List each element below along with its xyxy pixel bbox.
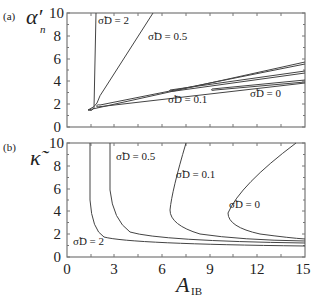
panel-b-label: (b): [3, 141, 16, 154]
svg-text:6: 6: [54, 181, 62, 197]
svg-text:0: 0: [54, 249, 62, 265]
svg-text:2: 2: [54, 226, 62, 242]
svg-text:6: 6: [54, 51, 62, 67]
svg-text:6: 6: [158, 261, 166, 277]
svg-text:0: 0: [63, 261, 71, 277]
curve-a-sigma-2: [88, 13, 96, 111]
y-axis-label-b: κ̃: [30, 145, 50, 170]
label-b-sigma-0.5: σ̃D = 0.5: [116, 150, 156, 162]
label-a-sigma-0.1: σ̃D = 0.1: [168, 93, 207, 105]
legend-labels-b: σ̃D = 2 σ̃D = 0.5 σ̃D = 0.1 σ̃D = 0: [73, 150, 261, 247]
svg-text:0: 0: [54, 119, 62, 135]
svg-text:10: 10: [49, 135, 64, 151]
svg-text:3: 3: [110, 261, 118, 277]
svg-text:12: 12: [250, 261, 265, 277]
panel-a: (a) α′ n: [3, 4, 305, 135]
svg-text:4: 4: [54, 203, 62, 219]
y-tick-labels-b: 0 2 4 6 8 10: [49, 135, 64, 265]
curve-b-sigma-0: [228, 143, 305, 239]
label-b-sigma-2: σ̃D = 2: [73, 235, 104, 247]
label-a-sigma-2: σ̃D = 2: [98, 14, 129, 26]
figure: (a) α′ n: [0, 0, 318, 296]
svg-text:4: 4: [54, 73, 62, 89]
y-tick-labels-a: 0 2 4 6 8 10: [49, 5, 64, 135]
panel-b: (b) κ̃ 0: [3, 135, 311, 296]
x-axis-label: A: [174, 272, 190, 296]
svg-text:8: 8: [54, 28, 62, 44]
curve-a-sigma-0.5: [88, 13, 153, 110]
svg-text:10: 10: [49, 5, 64, 21]
panel-a-label: (a): [3, 10, 16, 23]
y-axis-label-a-subscript: n: [40, 23, 46, 35]
legend-labels-a: σ̃D = 2 σ̃D = 0.5 σ̃D = 0.1 σ̃D = 0: [98, 14, 282, 105]
label-a-sigma-0.5: σ̃D = 0.5: [148, 30, 188, 42]
svg-text:2: 2: [54, 96, 62, 112]
svg-text:9: 9: [206, 261, 214, 277]
svg-text:15: 15: [296, 261, 311, 277]
label-a-sigma-0: σ̃D = 0: [250, 87, 282, 99]
label-b-sigma-0: σ̃D = 0: [229, 198, 261, 210]
label-b-sigma-0.1: σ̃D = 0.1: [176, 168, 215, 180]
x-axis-label-subscript: IB: [191, 285, 202, 296]
svg-text:8: 8: [54, 158, 62, 174]
